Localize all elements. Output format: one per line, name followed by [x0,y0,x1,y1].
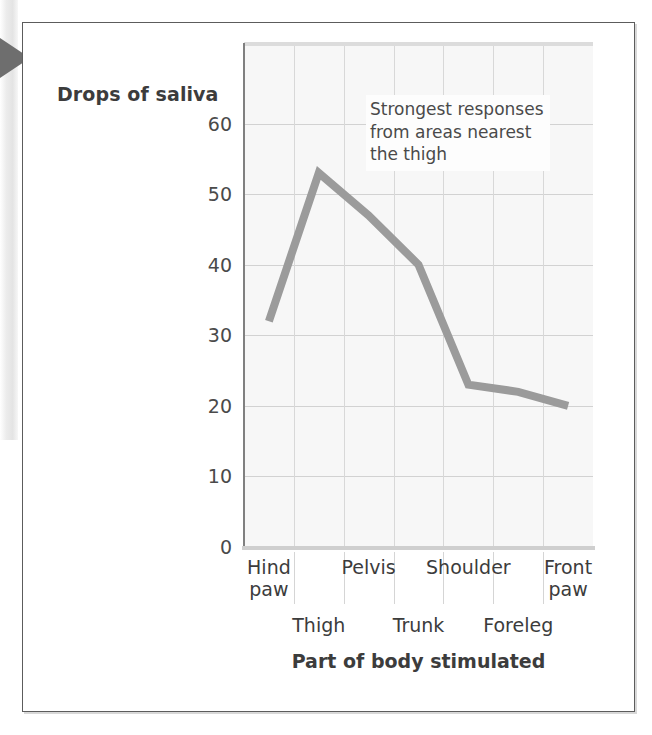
x-axis-category-label: Trunk [393,614,445,636]
y-axis-tick-label: 50 [208,183,232,205]
y-axis-title: Drops of saliva [57,83,219,105]
y-axis-tick-label: 10 [208,465,232,487]
x-axis-category-label: Shoulder [426,556,511,578]
y-axis-tick-label: 0 [220,536,232,558]
figure-card: Drops of saliva 0102030405060 Strongest … [22,22,635,712]
x-axis-category-label: Pelvis [342,556,396,578]
x-axis-title: Part of body stimulated [244,650,593,672]
x-axis-category-label: Foreleg [483,614,553,636]
y-axis-tick-label: 60 [208,113,232,135]
x-axis-category-label: Thigh [292,614,345,636]
y-axis-tick-label: 20 [208,395,232,417]
y-axis-tick-label: 40 [208,254,232,276]
x-axis-tick-separator [294,552,295,604]
y-axis-tick-label: 30 [208,324,232,346]
x-axis-category-label: Front paw [544,556,592,601]
chart-annotation: Strongest responses from areas nearest t… [366,95,550,171]
x-axis-category-label: Hind paw [247,556,291,601]
